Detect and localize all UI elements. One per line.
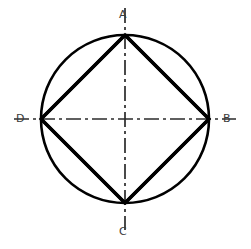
vertex-label-d: D [16, 113, 24, 124]
geometry-figure [0, 0, 251, 249]
diagram-canvas: A B C D [0, 0, 251, 249]
vertex-label-a: A [119, 9, 127, 20]
vertex-label-b: B [223, 113, 231, 124]
vertex-label-c: C [119, 226, 127, 237]
